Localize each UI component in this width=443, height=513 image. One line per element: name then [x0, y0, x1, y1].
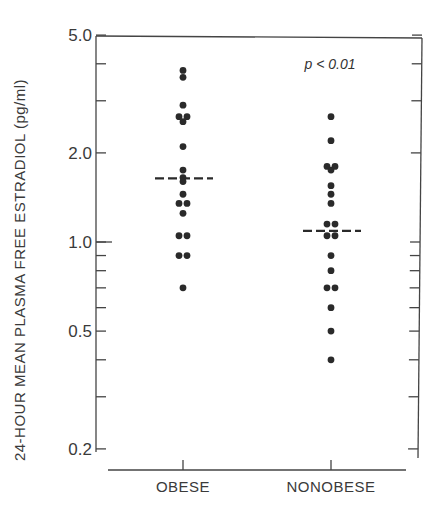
data-point: [328, 328, 335, 335]
y-tick-label: 0.5: [68, 322, 92, 341]
data-point: [180, 191, 187, 198]
data-point: [324, 284, 331, 291]
data-point: [324, 232, 331, 239]
data-point: [184, 252, 191, 259]
data-point: [184, 232, 191, 239]
data-point: [332, 232, 339, 239]
data-point: [180, 210, 187, 217]
data-point: [328, 113, 335, 120]
y-axis-ticks: [96, 35, 112, 449]
y-tick-label: 1.0: [68, 233, 92, 252]
data-point: [176, 252, 183, 259]
data-point: [180, 102, 187, 109]
data-points: [176, 67, 339, 363]
data-point: [328, 356, 335, 363]
data-point: [180, 67, 187, 74]
data-point: [328, 252, 335, 259]
category-label-obese: OBESE: [156, 478, 210, 495]
y-tick-label: 0.2: [68, 440, 92, 459]
data-point: [328, 167, 335, 174]
data-point: [328, 200, 335, 207]
y-tick-labels: 5.02.01.00.50.2: [68, 26, 92, 459]
data-point: [180, 284, 187, 291]
data-point: [180, 118, 187, 125]
data-point: [324, 221, 331, 228]
y-tick-label: 2.0: [68, 144, 92, 163]
data-point: [180, 143, 187, 150]
y-axis-ticks-right: [408, 35, 422, 449]
data-point: [328, 267, 335, 274]
data-point: [176, 200, 183, 207]
data-point: [176, 232, 183, 239]
data-point: [328, 137, 335, 144]
data-point: [184, 200, 191, 207]
y-tick-label: 5.0: [68, 26, 92, 45]
data-point: [328, 304, 335, 311]
category-label-nonobese: NONOBESE: [286, 478, 375, 495]
data-point: [328, 182, 335, 189]
plot-frame: [96, 36, 422, 470]
data-point: [180, 167, 187, 174]
p-value-annotation: p < 0.01: [304, 56, 356, 72]
data-point: [180, 74, 187, 81]
data-point: [332, 221, 339, 228]
data-point: [328, 191, 335, 198]
dot-plot: 5.02.01.00.50.2 p < 0.01 OBESE NONOBESE: [0, 0, 443, 513]
data-point: [332, 284, 339, 291]
